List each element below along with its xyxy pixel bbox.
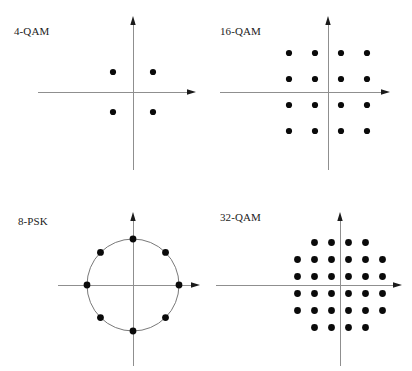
constellation-point bbox=[97, 249, 104, 256]
constellation-point bbox=[130, 328, 137, 335]
y-axis-arrowhead bbox=[325, 16, 330, 25]
constellation-point bbox=[345, 324, 352, 331]
plot-8-psk bbox=[0, 186, 206, 371]
constellation-point bbox=[312, 128, 318, 134]
y-axis-arrowhead bbox=[130, 16, 135, 25]
constellation-point bbox=[294, 307, 301, 314]
panel-16-qam: 16-QAM bbox=[206, 0, 412, 185]
constellation-point bbox=[312, 50, 318, 56]
constellation-point bbox=[311, 239, 318, 246]
constellation-point bbox=[286, 128, 292, 134]
constellation-point bbox=[294, 256, 301, 263]
constellation-point bbox=[364, 50, 370, 56]
constellation-point bbox=[286, 102, 292, 108]
constellation-point bbox=[345, 273, 352, 280]
constellation-point bbox=[362, 307, 369, 314]
constellation-point bbox=[328, 256, 335, 263]
constellation-point bbox=[150, 109, 156, 115]
constellation-point bbox=[364, 76, 370, 82]
constellation-point bbox=[311, 290, 318, 297]
constellation-point bbox=[84, 282, 91, 289]
constellation-point bbox=[150, 69, 156, 75]
x-axis-arrowhead bbox=[191, 282, 200, 287]
constellation-point bbox=[328, 239, 335, 246]
constellation-point bbox=[379, 256, 386, 263]
constellation-point bbox=[110, 109, 116, 115]
constellation-point bbox=[328, 273, 335, 280]
constellation-point bbox=[311, 256, 318, 263]
constellation-point bbox=[379, 307, 386, 314]
constellation-point bbox=[162, 314, 169, 321]
constellation-point bbox=[362, 239, 369, 246]
constellation-point bbox=[130, 236, 137, 243]
x-axis-arrowhead bbox=[393, 282, 402, 287]
panel-4-qam: 4-QAM bbox=[0, 0, 206, 185]
constellation-point bbox=[362, 324, 369, 331]
constellation-point bbox=[311, 324, 318, 331]
plot-4-qam bbox=[0, 0, 206, 185]
constellation-point bbox=[379, 273, 386, 280]
constellation-point bbox=[176, 282, 183, 289]
constellation-point bbox=[338, 102, 344, 108]
constellation-point bbox=[311, 307, 318, 314]
panel-32-qam: 32-QAM bbox=[206, 186, 412, 371]
constellation-point bbox=[311, 273, 318, 280]
constellation-point bbox=[379, 290, 386, 297]
plot-32-qam bbox=[206, 186, 412, 371]
constellation-point bbox=[328, 290, 335, 297]
constellation-point bbox=[345, 307, 352, 314]
panel-8-psk: 8-PSK bbox=[0, 186, 206, 371]
constellation-point bbox=[362, 256, 369, 263]
constellation-point bbox=[345, 256, 352, 263]
y-axis-arrowhead bbox=[337, 212, 342, 221]
constellation-point bbox=[294, 290, 301, 297]
constellation-point bbox=[328, 307, 335, 314]
constellation-point bbox=[345, 290, 352, 297]
constellation-point bbox=[364, 102, 370, 108]
plot-16-qam bbox=[206, 0, 412, 185]
x-axis-arrowhead bbox=[187, 89, 196, 94]
constellation-point bbox=[286, 76, 292, 82]
constellation-point bbox=[110, 69, 116, 75]
constellation-point bbox=[312, 102, 318, 108]
constellation-point bbox=[338, 128, 344, 134]
constellation-point bbox=[286, 50, 292, 56]
constellation-point bbox=[338, 50, 344, 56]
constellation-point bbox=[294, 273, 301, 280]
constellation-figure: 4-QAM 16-QAM 8-PSK 32-QAM bbox=[0, 0, 412, 371]
constellation-point bbox=[362, 290, 369, 297]
y-axis-arrowhead bbox=[130, 212, 135, 221]
x-axis-arrowhead bbox=[381, 89, 390, 94]
constellation-point bbox=[345, 239, 352, 246]
constellation-point bbox=[162, 249, 169, 256]
constellation-point bbox=[364, 128, 370, 134]
constellation-point bbox=[312, 76, 318, 82]
constellation-point bbox=[338, 76, 344, 82]
constellation-point bbox=[97, 314, 104, 321]
constellation-point bbox=[328, 324, 335, 331]
constellation-point bbox=[362, 273, 369, 280]
